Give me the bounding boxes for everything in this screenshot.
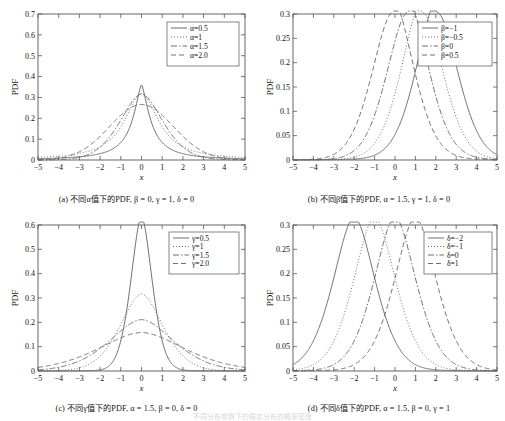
legend-label-δ=1: δ=1 <box>447 259 459 268</box>
svg-text:PDF: PDF <box>265 290 275 307</box>
svg-text:2: 2 <box>181 163 185 172</box>
panel-a-svg: −5−4−3−2−101234500.10.20.30.40.50.60.7xP… <box>0 0 253 190</box>
svg-text:4: 4 <box>475 163 479 172</box>
svg-text:0.1: 0.1 <box>25 135 35 144</box>
svg-text:0.3: 0.3 <box>280 221 290 230</box>
svg-text:−1: −1 <box>370 374 379 383</box>
svg-text:5: 5 <box>243 374 247 383</box>
svg-text:1: 1 <box>160 163 164 172</box>
svg-text:0.25: 0.25 <box>276 34 290 43</box>
svg-text:4: 4 <box>222 374 226 383</box>
svg-text:2: 2 <box>181 374 185 383</box>
svg-text:−5: −5 <box>289 163 298 172</box>
svg-text:0.2: 0.2 <box>280 269 290 278</box>
bottom-text-fragment: 不同分布参数下的稳定分布的概率密度 <box>0 411 505 421</box>
svg-text:−4: −4 <box>54 374 63 383</box>
curve-c3 <box>38 320 245 370</box>
curve-c4 <box>38 332 245 367</box>
svg-text:0: 0 <box>31 156 35 165</box>
legend-label-β=0.5: β=0.5 <box>441 51 459 60</box>
curve-a1 <box>38 85 245 159</box>
panel-c: −5−4−3−2−101234500.10.20.30.40.50.6xPDFγ… <box>0 211 253 421</box>
legend-label-β=0: β=0 <box>441 42 453 51</box>
figure-grid: −5−4−3−2−101234500.10.20.30.40.50.60.7xP… <box>0 0 505 421</box>
svg-text:0.3: 0.3 <box>25 294 35 303</box>
svg-text:0.15: 0.15 <box>276 83 290 92</box>
svg-text:−4: −4 <box>309 163 318 172</box>
svg-text:0.2: 0.2 <box>25 114 35 123</box>
svg-text:−3: −3 <box>330 163 339 172</box>
svg-text:0.1: 0.1 <box>280 318 290 327</box>
svg-text:3: 3 <box>454 374 458 383</box>
svg-text:1: 1 <box>413 163 417 172</box>
svg-text:0.3: 0.3 <box>25 93 35 102</box>
svg-text:1: 1 <box>160 374 164 383</box>
panel-d-svg: −5−4−3−2−101234500.050.10.150.20.250.3xP… <box>253 211 505 401</box>
svg-text:0.1: 0.1 <box>280 107 290 116</box>
svg-text:PDF: PDF <box>10 290 20 307</box>
svg-text:0: 0 <box>140 374 144 383</box>
svg-text:x: x <box>392 383 397 393</box>
svg-text:4: 4 <box>475 374 479 383</box>
legend-label-α=2.0: α=2.0 <box>190 51 208 60</box>
svg-text:−3: −3 <box>330 374 339 383</box>
svg-text:5: 5 <box>495 374 499 383</box>
svg-text:2: 2 <box>434 163 438 172</box>
panel-b-svg: −5−4−3−2−101234500.050.10.150.20.250.3xP… <box>253 0 505 190</box>
svg-text:−3: −3 <box>75 374 84 383</box>
svg-text:0: 0 <box>286 156 290 165</box>
svg-text:−2: −2 <box>96 163 105 172</box>
svg-text:0: 0 <box>393 163 397 172</box>
svg-text:3: 3 <box>202 163 206 172</box>
svg-text:−5: −5 <box>34 163 43 172</box>
svg-text:−1: −1 <box>370 163 379 172</box>
svg-text:0.7: 0.7 <box>25 10 35 19</box>
panel-d-plot: −5−4−3−2−101234500.050.10.150.20.250.3xP… <box>253 211 505 421</box>
legend-label-α=1.5: α=1.5 <box>190 42 208 51</box>
svg-text:0.15: 0.15 <box>276 294 290 303</box>
svg-text:x: x <box>139 383 144 393</box>
svg-text:0.4: 0.4 <box>25 72 35 81</box>
panel-b: −5−4−3−2−101234500.050.10.150.20.250.3xP… <box>253 0 505 211</box>
svg-text:−2: −2 <box>350 374 359 383</box>
svg-text:0.4: 0.4 <box>25 269 35 278</box>
svg-text:0.05: 0.05 <box>276 342 290 351</box>
svg-text:PDF: PDF <box>10 79 20 96</box>
svg-text:2: 2 <box>434 374 438 383</box>
svg-text:0.3: 0.3 <box>280 10 290 19</box>
svg-text:−4: −4 <box>54 163 63 172</box>
svg-text:0: 0 <box>286 367 290 376</box>
panel-a-plot: −5−4−3−2−101234500.10.20.30.40.50.60.7xP… <box>0 0 253 211</box>
legend-label-β=-1: β=−1 <box>441 24 457 33</box>
svg-text:−5: −5 <box>34 374 43 383</box>
svg-text:−2: −2 <box>350 163 359 172</box>
legend-label-γ=2.0: γ=2.0 <box>191 259 209 268</box>
svg-text:x: x <box>139 172 144 182</box>
svg-text:0.2: 0.2 <box>25 318 35 327</box>
curve-a3 <box>38 94 245 160</box>
panel-a-caption: (a) 不同α值下的PDF, β = 0, γ = 1, δ = 0 <box>0 192 253 204</box>
curve-c2 <box>38 294 245 371</box>
legend-label-α=1: α=1 <box>190 33 202 42</box>
svg-text:0.6: 0.6 <box>25 31 35 40</box>
svg-text:5: 5 <box>495 163 499 172</box>
svg-text:3: 3 <box>202 374 206 383</box>
panel-d: −5−4−3−2−101234500.050.10.150.20.250.3xP… <box>253 211 505 421</box>
svg-text:0.5: 0.5 <box>25 52 35 61</box>
svg-text:4: 4 <box>222 163 226 172</box>
svg-text:PDF: PDF <box>265 79 275 96</box>
curve-a2 <box>38 94 245 158</box>
svg-text:−1: −1 <box>117 374 126 383</box>
svg-text:0: 0 <box>393 374 397 383</box>
legend-label-β=-0.5: β=−0.5 <box>441 33 463 42</box>
svg-text:1: 1 <box>413 374 417 383</box>
svg-text:0: 0 <box>140 163 144 172</box>
panel-b-plot: −5−4−3−2−101234500.050.10.150.20.250.3xP… <box>253 0 505 211</box>
panel-c-plot: −5−4−3−2−101234500.10.20.30.40.50.6xPDFγ… <box>0 211 253 421</box>
svg-text:0.6: 0.6 <box>25 221 35 230</box>
svg-text:0.5: 0.5 <box>25 245 35 254</box>
svg-text:0.25: 0.25 <box>276 245 290 254</box>
panel-b-caption: (b) 不同β值下的PDF, α = 1.5, γ = 1, δ = 0 <box>253 192 505 204</box>
curve-a4 <box>38 105 245 160</box>
svg-text:−5: −5 <box>289 374 298 383</box>
